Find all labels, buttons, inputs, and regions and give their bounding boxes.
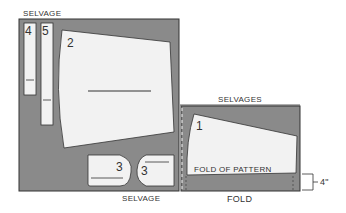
piece-2 bbox=[58, 30, 174, 148]
piece-3a bbox=[88, 155, 131, 186]
fold-of-pattern-label: FOLD OF PATTERN bbox=[194, 165, 272, 174]
piece-4-label: 4 bbox=[25, 24, 32, 38]
piece-3b-label: 3 bbox=[141, 164, 148, 178]
selvages-label: SELVAGES bbox=[218, 95, 262, 104]
piece-5 bbox=[41, 23, 53, 125]
piece-2-label: 2 bbox=[67, 36, 74, 50]
pattern-layout-graphic bbox=[0, 0, 346, 213]
dimension-label: 4" bbox=[320, 177, 329, 187]
piece-3a-label: 3 bbox=[116, 160, 123, 174]
fold-label: FOLD bbox=[227, 194, 252, 204]
piece-1-label: 1 bbox=[196, 119, 203, 133]
piece-5-label: 5 bbox=[42, 24, 49, 38]
selvage-top-label: SELVAGE bbox=[23, 9, 61, 18]
selvage-bottom-label: SELVAGE bbox=[122, 194, 160, 203]
